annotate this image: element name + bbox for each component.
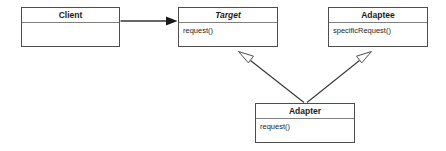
class-members-client — [22, 23, 119, 47]
class-member-request: request() — [260, 122, 354, 132]
generalization-line-adapter-adaptee — [307, 61, 360, 103]
relationship-adapter-target — [239, 52, 305, 103]
class-name-adapter: Adapter — [256, 104, 354, 119]
relationship-adapter-adaptee — [307, 52, 372, 103]
uml-class-diagram: Client Target request() Adaptee specific… — [0, 0, 446, 151]
uml-class-target[interactable]: Target request() — [178, 7, 278, 47]
solid-arrowhead-target — [166, 17, 178, 26]
class-name-client: Client — [22, 8, 119, 23]
class-members-adapter: request() — [256, 119, 354, 143]
class-name-target: Target — [179, 8, 277, 23]
class-members-target: request() — [179, 23, 277, 47]
uml-class-client[interactable]: Client — [21, 7, 120, 47]
class-member-request: request() — [183, 26, 277, 36]
uml-class-adapter[interactable]: Adapter request() — [255, 103, 355, 143]
class-members-adaptee: specificRequest() — [329, 23, 427, 47]
relationship-client-target — [121, 17, 178, 26]
class-member-specific-request: specificRequest() — [333, 26, 427, 36]
generalization-line-adapter-target — [251, 61, 305, 103]
uml-class-adaptee[interactable]: Adaptee specificRequest() — [328, 7, 428, 47]
class-name-adaptee: Adaptee — [329, 8, 427, 23]
